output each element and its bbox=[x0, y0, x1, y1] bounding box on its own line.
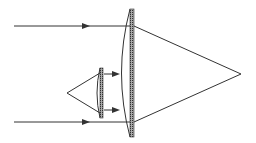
bottom-incoming-ray bbox=[14, 119, 131, 125]
arrowhead-icon bbox=[82, 119, 90, 125]
point-source-rays bbox=[67, 73, 100, 113]
small-lens bbox=[97, 68, 103, 118]
top-incoming-ray bbox=[14, 23, 131, 29]
arrowhead-icon bbox=[82, 23, 90, 29]
arrowhead-icon bbox=[112, 107, 120, 113]
converging-rays bbox=[134, 26, 241, 122]
large-lens bbox=[122, 9, 135, 137]
collimated-rays bbox=[104, 71, 120, 113]
optics-diagram bbox=[0, 0, 256, 143]
arrowhead-icon bbox=[112, 71, 120, 77]
ray-diagram-canvas bbox=[0, 0, 256, 143]
